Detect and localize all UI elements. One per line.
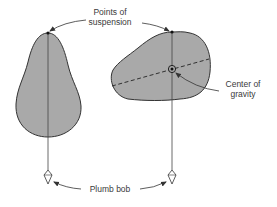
suspension-line2: suspension <box>80 17 140 27</box>
right-plumb-bob-icon <box>168 170 176 184</box>
plumb-bob-label: Plumb bob <box>82 184 138 194</box>
cog-line1: Center of <box>218 79 268 89</box>
left-body-shape <box>16 33 81 137</box>
points-of-suspension-label: Points of suspension <box>80 7 140 27</box>
right-suspension-point <box>170 30 173 33</box>
left-suspension-point <box>46 31 49 34</box>
suspension-line1: Points of <box>80 7 140 17</box>
arrow-to-left-plumb-bob <box>54 182 81 189</box>
right-body-shape <box>111 32 210 101</box>
plumb-bob-text: Plumb bob <box>90 184 131 194</box>
left-plumb-bob-icon <box>44 170 52 184</box>
arrow-to-right-plumb-bob <box>140 182 166 189</box>
cog-line2: gravity <box>218 89 268 99</box>
center-of-gravity-label: Center of gravity <box>218 79 268 99</box>
center-of-gravity-marker <box>168 65 175 72</box>
plumb-line-diagram: Points of suspension Center of gravity P… <box>0 0 277 207</box>
arrow-to-right-suspension <box>142 23 169 31</box>
diagram-graphics <box>0 0 277 207</box>
